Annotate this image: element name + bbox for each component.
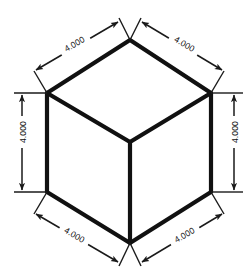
extension-line-tl-near: [34, 71, 47, 93]
extension-line-tr-far: [211, 71, 224, 93]
extension-line-br-near: [130, 243, 141, 266]
extension-line-bl-far: [119, 243, 130, 266]
cube-inner-edge-top-left: [47, 93, 130, 142]
isometric-cube-drawing: 4.000 4.000 4.000 4.000: [0, 0, 252, 276]
cube-body: [47, 40, 211, 243]
technical-drawing-canvas: 4.000 4.000 4.000 4.000: [0, 0, 252, 276]
dimension-label-right-vertical: 4.000: [230, 121, 240, 143]
extension-line-br-far: [211, 192, 224, 214]
dimension-bottom-right: 4.000: [130, 192, 224, 266]
extension-line-tl-far: [119, 18, 130, 40]
dimension-right-vertical: 4.000: [211, 93, 243, 192]
cube-inner-edge-top-right: [130, 93, 211, 142]
dimension-top-left: 4.000: [34, 18, 130, 93]
extension-line-bl-near: [34, 192, 47, 214]
dimension-bottom-left: 4.000: [34, 192, 130, 266]
dimension-left-vertical: 4.000: [14, 93, 47, 192]
extension-line-tr-near: [130, 18, 141, 40]
dimension-top-right: 4.000: [130, 18, 224, 93]
dimension-label-left-vertical: 4.000: [18, 121, 28, 143]
